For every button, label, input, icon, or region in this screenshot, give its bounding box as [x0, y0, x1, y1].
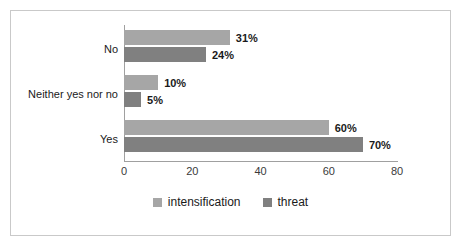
category-axis-labels: No Neither yes nor no Yes	[6, 26, 118, 161]
bar-group-no: 31% 24%	[124, 26, 397, 71]
bar-value-label: 60%	[335, 122, 357, 133]
value-tick-label: 80	[391, 166, 403, 177]
bar-value-label: 70%	[369, 139, 391, 150]
value-axis-labels: 020406080	[124, 166, 398, 182]
legend-item-intensification: intensification	[153, 196, 241, 208]
bar-group-neither: 10% 5%	[124, 71, 397, 116]
bar-value-label: 5%	[147, 94, 163, 105]
value-tick-label: 20	[186, 166, 198, 177]
legend-item-threat: threat	[263, 196, 309, 208]
bar-value-label: 10%	[164, 77, 186, 88]
category-label-yes: Yes	[6, 134, 118, 145]
value-tick-label: 60	[323, 166, 335, 177]
category-label-no: No	[6, 44, 118, 55]
bar-intensification-no: 31%	[124, 30, 230, 45]
legend-label: intensification	[168, 196, 241, 208]
bar-group-yes: 60% 70%	[124, 116, 397, 161]
bar-intensification-neither: 10%	[124, 75, 158, 90]
legend-swatch-icon	[153, 198, 162, 207]
chart-legend: intensification threat	[0, 196, 461, 208]
category-label-neither: Neither yes nor no	[6, 89, 118, 100]
plot-area: 31% 24% 10% 5% 60% 70%	[124, 26, 397, 161]
bar-intensification-yes: 60%	[124, 120, 329, 135]
bar-threat-no: 24%	[124, 47, 206, 62]
bar-chart-figure: No Neither yes nor no Yes 31% 24% 10% 5%…	[0, 0, 461, 246]
category-axis-line	[124, 161, 398, 162]
bar-value-label: 31%	[236, 32, 258, 43]
bar-value-label: 24%	[212, 49, 234, 60]
legend-label: threat	[278, 196, 309, 208]
value-tick-label: 0	[121, 166, 127, 177]
bar-threat-yes: 70%	[124, 137, 363, 152]
legend-swatch-icon	[263, 198, 272, 207]
value-tick-label: 40	[254, 166, 266, 177]
bar-threat-neither: 5%	[124, 92, 141, 107]
